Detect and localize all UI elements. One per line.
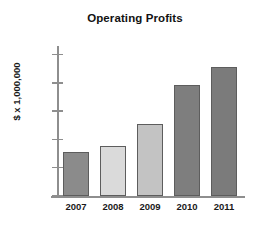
chart-page: { "chart_data": { "type": "bar", "title"… bbox=[0, 0, 270, 229]
y-tick-25 bbox=[52, 54, 57, 56]
y-tick-15 bbox=[52, 110, 57, 112]
x-tick-label: 2010 bbox=[167, 202, 207, 212]
y-tick-0 bbox=[52, 195, 57, 197]
bar-2007 bbox=[63, 152, 89, 196]
y-tick-inner-10 bbox=[58, 139, 63, 141]
y-tick-inner-25 bbox=[58, 54, 63, 56]
x-tick-label: 2007 bbox=[56, 202, 96, 212]
y-axis-label: $ x 1,000,000 bbox=[11, 44, 22, 140]
y-tick-inner-15 bbox=[58, 110, 63, 112]
bar-2008 bbox=[100, 146, 126, 196]
y-tick-20 bbox=[52, 82, 57, 84]
y-tick-10 bbox=[52, 139, 57, 141]
y-axis-line bbox=[57, 46, 59, 197]
chart-title: Operating Profits bbox=[0, 12, 270, 24]
x-tick-label: 2009 bbox=[130, 202, 170, 212]
bar-2010 bbox=[174, 85, 200, 197]
plot-area: 0510152025 20072008200920102011 bbox=[57, 46, 245, 197]
y-tick-5 bbox=[52, 167, 57, 169]
bar-2011 bbox=[211, 67, 237, 196]
bar-2009 bbox=[137, 124, 163, 196]
x-axis-line bbox=[51, 196, 245, 198]
x-tick-label: 2011 bbox=[204, 202, 244, 212]
x-tick-label: 2008 bbox=[93, 202, 133, 212]
y-tick-inner-20 bbox=[58, 82, 63, 84]
